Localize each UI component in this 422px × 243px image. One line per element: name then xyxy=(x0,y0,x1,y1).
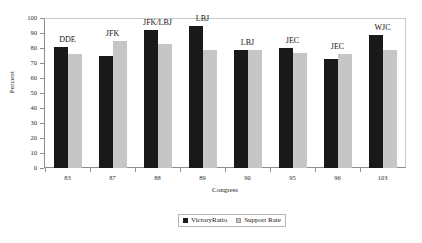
bar-group: LBJ xyxy=(234,18,262,168)
legend-label-support: Support Rate xyxy=(244,216,281,224)
bar-victory-ratio xyxy=(54,47,68,169)
y-axis-tick-label: 90 xyxy=(31,29,38,36)
x-axis-tick-label: 90 xyxy=(228,174,268,181)
bar-group: JFK/LBJ xyxy=(144,18,172,168)
bar-group: LBJ xyxy=(189,18,217,168)
x-axis-tick-label: 103 xyxy=(363,174,403,181)
bars-layer: DDEJFKJFK/LBJLBJLBJJECJECWJC xyxy=(45,18,405,168)
x-axis-tick-mark xyxy=(135,168,136,172)
x-axis-tick-mark xyxy=(360,168,361,172)
bar-victory-ratio xyxy=(144,30,158,168)
y-axis-tick-label: 30 xyxy=(31,119,38,126)
bar-support-rate xyxy=(293,53,307,169)
y-axis-tick-label: 0 xyxy=(34,164,37,171)
bar-group: JEC xyxy=(279,18,307,168)
legend-item-victory-ratio: VictoryRatio xyxy=(183,216,227,224)
bar-group-annotation: JEC xyxy=(313,42,363,51)
x-axis-tick-mark xyxy=(180,168,181,172)
y-axis-tick-label: 70 xyxy=(31,59,38,66)
legend-item-support-rate: Support Rate xyxy=(236,216,281,224)
bar-victory-ratio xyxy=(234,50,248,169)
legend-swatch-icon-victory xyxy=(183,218,188,223)
bar-group-annotation: JEC xyxy=(268,36,318,45)
bar-group: JEC xyxy=(324,18,352,168)
bar-support-rate xyxy=(158,44,172,169)
bar-group-annotation: DDE xyxy=(43,35,93,44)
y-axis-tick-label: 80 xyxy=(31,44,38,51)
bar-victory-ratio xyxy=(189,26,203,169)
x-axis-tick-mark xyxy=(90,168,91,172)
bar-support-rate xyxy=(383,50,397,169)
x-axis-tick-label: 89 xyxy=(183,174,223,181)
bar-support-rate xyxy=(248,50,262,169)
bar-support-rate xyxy=(203,50,217,169)
y-axis-tick-label: 40 xyxy=(31,104,38,111)
y-axis-tick-label: 60 xyxy=(31,74,38,81)
x-axis-tick-label: 88 xyxy=(138,174,178,181)
y-axis-tick-mark xyxy=(40,168,44,169)
bar-support-rate xyxy=(68,54,82,168)
bar-group-annotation: LBJ xyxy=(223,38,273,47)
x-axis-tick-label: 96 xyxy=(318,174,358,181)
x-axis-tick-mark xyxy=(270,168,271,172)
bar-victory-ratio xyxy=(279,48,293,168)
chart-legend: VictoryRatio Support Rate xyxy=(178,214,286,227)
bar-victory-ratio xyxy=(99,56,113,169)
bar-group-annotation: LBJ xyxy=(178,14,228,23)
bar-group-annotation: JFK xyxy=(88,29,138,38)
bar-group: WJC xyxy=(369,18,397,168)
x-axis-tick-label: 83 xyxy=(48,174,88,181)
y-axis-tick-label: 10 xyxy=(31,149,38,156)
y-axis-title: Percent xyxy=(8,52,16,112)
bar-support-rate xyxy=(338,54,352,168)
y-axis-tick-label: 100 xyxy=(27,14,37,21)
bar-group-annotation: WJC xyxy=(358,23,408,32)
legend-swatch-icon-support xyxy=(236,218,241,223)
x-axis-tick-label: 87 xyxy=(93,174,133,181)
x-axis-tick-label: 95 xyxy=(273,174,313,181)
legend-label-victory: VictoryRatio xyxy=(191,216,227,224)
bar-chart: Percent 0102030405060708090100 DDEJFKJFK… xyxy=(0,0,422,243)
y-axis-tick-label: 50 xyxy=(31,89,38,96)
bar-support-rate xyxy=(113,41,127,169)
y-axis-tick-label: 20 xyxy=(31,134,38,141)
bar-group-annotation: JFK/LBJ xyxy=(133,18,183,27)
x-axis-tick-mark xyxy=(315,168,316,172)
x-axis-title: Congress xyxy=(44,186,406,194)
bar-group: DDE xyxy=(54,18,82,168)
x-axis-tick-mark xyxy=(45,168,46,172)
bar-group: JFK xyxy=(99,18,127,168)
x-axis-tick-mark xyxy=(225,168,226,172)
bar-victory-ratio xyxy=(324,59,338,169)
bar-victory-ratio xyxy=(369,35,383,169)
